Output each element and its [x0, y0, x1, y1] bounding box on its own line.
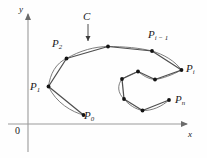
point-pn — [167, 98, 171, 102]
label-origin: 0 — [15, 126, 20, 136]
point-k2 — [136, 70, 140, 74]
point-p3 — [106, 45, 110, 49]
label-pi-base: P — [186, 62, 193, 74]
label-p2-sub: 2 — [59, 43, 62, 50]
point-k1 — [153, 78, 157, 82]
label-p1-sub: 1 — [37, 86, 40, 93]
polyline-chords — [49, 47, 182, 116]
label-x-axis: x — [188, 130, 192, 139]
geometry-figure: C P0 P1 P2 Pi − 1 Pi Pn 0 x y — [0, 0, 207, 158]
label-point-p2: P2 — [52, 38, 62, 51]
label-point-pi-minus-1: Pi − 1 — [148, 29, 168, 42]
label-point-pi: Pi — [186, 63, 195, 76]
point-pi — [180, 68, 184, 72]
label-p1-base: P — [30, 80, 37, 92]
point-pi-minus-1 — [150, 49, 154, 53]
figure-canvas — [0, 0, 207, 158]
point-p2 — [65, 57, 69, 61]
inscribed-polyline — [49, 47, 182, 116]
label-pn-sub: n — [182, 99, 185, 106]
label-y-axis: y — [19, 5, 23, 14]
label-curve-c: C — [83, 11, 90, 22]
label-point-p1: P1 — [30, 81, 40, 94]
point-k4 — [122, 97, 126, 101]
label-p0-base: P — [84, 109, 91, 121]
point-k5 — [141, 109, 145, 113]
label-pi-minus-1-base: P — [148, 28, 155, 40]
label-point-pn: Pn — [175, 94, 185, 107]
label-p2-base: P — [52, 37, 59, 49]
label-pi-sub: i — [193, 68, 195, 75]
point-k3 — [120, 77, 124, 81]
label-p0-sub: 0 — [91, 115, 94, 122]
label-pn-base: P — [175, 93, 182, 105]
label-point-p0: P0 — [84, 110, 94, 123]
label-pi-minus-1-sub: i − 1 — [155, 34, 168, 41]
point-p1 — [47, 85, 51, 89]
